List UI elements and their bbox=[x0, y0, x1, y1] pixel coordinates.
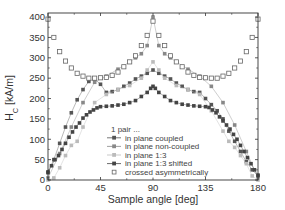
data-point bbox=[140, 95, 144, 99]
data-point bbox=[218, 115, 222, 119]
data-point bbox=[104, 75, 108, 79]
data-point bbox=[180, 65, 184, 69]
data-point bbox=[210, 85, 214, 89]
data-point bbox=[180, 102, 184, 106]
data-point bbox=[67, 135, 71, 139]
data-point bbox=[58, 50, 62, 54]
legend-marker bbox=[112, 170, 116, 174]
x-tick-label: 180 bbox=[250, 182, 266, 193]
data-point bbox=[145, 33, 149, 37]
data-point bbox=[157, 44, 161, 48]
data-point bbox=[238, 59, 242, 63]
data-point bbox=[249, 162, 253, 166]
data-point bbox=[64, 142, 68, 146]
data-point bbox=[186, 103, 190, 107]
data-point bbox=[145, 44, 149, 48]
y-axis-title-main: H bbox=[3, 113, 15, 121]
y-axis-title: HC [kA/m] bbox=[3, 75, 20, 121]
y-tick-label: 250 bbox=[29, 72, 45, 83]
legend-marker bbox=[112, 153, 116, 157]
data-point bbox=[116, 88, 120, 92]
data-point bbox=[69, 66, 73, 70]
data-point bbox=[110, 104, 114, 108]
x-tick-label: 90 bbox=[148, 182, 159, 193]
y-tick-label: 350 bbox=[29, 32, 45, 43]
data-point bbox=[175, 101, 179, 105]
data-point bbox=[116, 103, 120, 107]
data-point bbox=[145, 91, 149, 95]
data-point bbox=[105, 104, 109, 108]
data-point bbox=[227, 71, 231, 75]
data-point bbox=[93, 80, 97, 84]
data-point bbox=[74, 125, 78, 129]
x-tick-label: 0 bbox=[45, 182, 50, 193]
data-point bbox=[232, 133, 236, 137]
data-point bbox=[228, 127, 232, 131]
data-point bbox=[139, 43, 143, 47]
data-point bbox=[233, 146, 237, 150]
x-tick-label: 135 bbox=[198, 182, 214, 193]
data-point bbox=[203, 76, 207, 80]
data-point bbox=[75, 71, 79, 75]
y-tick-label: 300 bbox=[29, 52, 45, 63]
data-point bbox=[233, 123, 237, 127]
data-point bbox=[192, 73, 196, 77]
data-point bbox=[233, 66, 237, 70]
data-point bbox=[207, 106, 211, 110]
data-point bbox=[151, 19, 155, 23]
data-point bbox=[245, 162, 249, 166]
data-point bbox=[174, 60, 178, 64]
data-point bbox=[239, 154, 243, 158]
data-point bbox=[235, 137, 239, 141]
legend-marker bbox=[112, 136, 116, 140]
data-point bbox=[64, 125, 68, 129]
data-point bbox=[163, 43, 167, 47]
data-point bbox=[81, 74, 85, 78]
data-point bbox=[98, 76, 102, 80]
data-point bbox=[50, 164, 54, 168]
x-tick-label: 45 bbox=[95, 182, 106, 193]
data-point bbox=[128, 101, 132, 105]
data-point bbox=[151, 60, 155, 64]
data-point bbox=[122, 65, 126, 69]
y-tick-label: 50 bbox=[34, 154, 45, 165]
data-point bbox=[78, 121, 82, 125]
data-point bbox=[81, 101, 85, 105]
data-point bbox=[71, 130, 75, 134]
data-point bbox=[157, 91, 161, 95]
y-tick-label: 200 bbox=[29, 93, 45, 104]
data-point bbox=[99, 82, 103, 86]
data-point bbox=[163, 76, 167, 80]
legend-marker bbox=[112, 162, 116, 166]
data-point bbox=[204, 97, 208, 101]
data-point bbox=[81, 125, 85, 129]
data-point bbox=[214, 111, 218, 115]
data-point bbox=[209, 76, 213, 80]
data-point bbox=[53, 158, 57, 162]
data-point bbox=[246, 156, 250, 160]
data-point bbox=[250, 35, 254, 39]
data-point bbox=[145, 68, 149, 72]
data-point bbox=[88, 110, 92, 114]
data-point bbox=[64, 154, 68, 158]
data-point bbox=[168, 54, 172, 58]
data-point bbox=[58, 142, 62, 146]
data-point bbox=[151, 68, 155, 72]
data-point bbox=[87, 76, 91, 80]
data-point bbox=[186, 70, 190, 74]
chart-canvas: 04590135180050100150200250300350400 1 pa… bbox=[0, 0, 285, 210]
data-point bbox=[169, 77, 173, 81]
x-axis-title: Sample angle [deg] bbox=[108, 193, 199, 205]
data-point bbox=[116, 70, 120, 74]
data-point bbox=[192, 104, 196, 108]
data-point bbox=[58, 166, 62, 170]
data-point bbox=[198, 93, 202, 97]
data-point bbox=[221, 101, 225, 105]
legend: 1 pair ...in plane coupledin plane non-c… bbox=[105, 124, 208, 178]
data-point bbox=[134, 99, 138, 103]
data-point bbox=[63, 59, 67, 63]
data-point bbox=[204, 105, 208, 109]
data-point bbox=[250, 174, 254, 178]
data-point bbox=[52, 176, 56, 180]
data-point bbox=[93, 101, 97, 105]
